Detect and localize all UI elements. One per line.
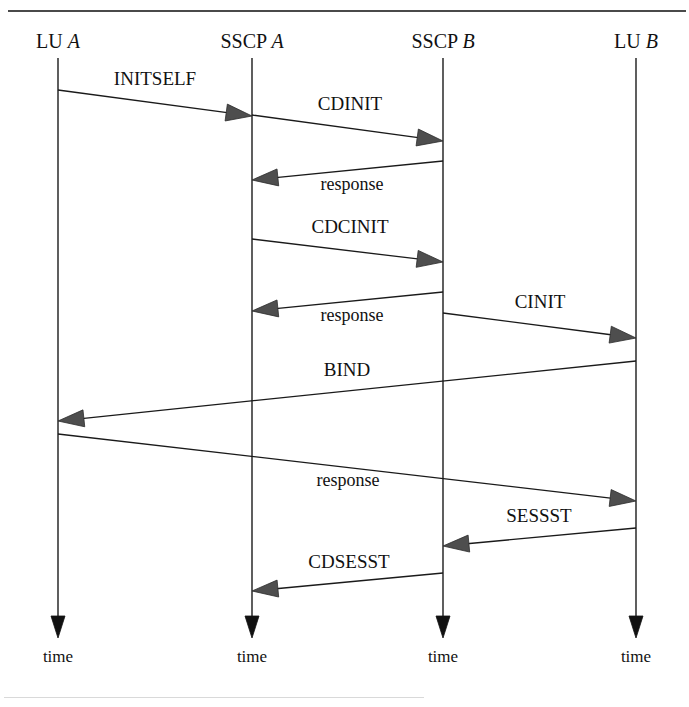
actor-label-lu_b: LU B — [614, 30, 658, 52]
actor-label-sscp_a: SSCP A — [220, 30, 284, 52]
actor-labels-group: LU ASSCP ASSCP BLU B — [36, 30, 658, 52]
message-m5: response — [252, 292, 443, 325]
message-m9: SESSST — [443, 505, 636, 552]
message-arrowhead-m6 — [609, 326, 636, 343]
message-m4: CDCINIT — [252, 216, 443, 267]
time-label-lu_a: time — [43, 647, 73, 666]
message-arrowhead-m3 — [252, 169, 279, 186]
message-m7: BIND — [58, 359, 636, 427]
message-arrowhead-m2 — [416, 129, 443, 146]
message-m8: response — [58, 434, 636, 506]
lifeline-sscp_a — [245, 58, 259, 638]
time-labels-group: timetimetimetime — [43, 647, 651, 666]
message-label-m2: CDINIT — [318, 93, 383, 114]
message-line-m10 — [273, 573, 443, 589]
message-label-m5: response — [321, 305, 384, 325]
message-arrowhead-m9 — [443, 535, 470, 552]
lifeline-arrowhead-sscp_b — [436, 616, 450, 638]
message-label-m1: INITSELF — [114, 68, 196, 89]
lifeline-sscp_b — [436, 58, 450, 638]
message-arrowhead-m8 — [609, 490, 636, 507]
actor-label-sscp_b: SSCP B — [411, 30, 474, 52]
lifeline-lu_a — [51, 58, 65, 638]
message-label-m8: response — [317, 470, 380, 490]
message-line-m1 — [58, 90, 231, 113]
time-label-sscp_a: time — [237, 647, 267, 666]
message-m10: CDSESST — [252, 551, 443, 597]
time-label-lu_b: time — [621, 647, 651, 666]
bottom-smudge-rule — [4, 697, 424, 698]
message-arrowhead-m4 — [416, 250, 443, 267]
sequence-diagram-page: INITSELFCDINITresponseCDCINITresponseCIN… — [0, 0, 689, 707]
message-arrowhead-m1 — [225, 104, 252, 121]
message-line-m4 — [252, 239, 422, 259]
lifeline-arrowhead-sscp_a — [245, 616, 259, 638]
lifeline-arrowhead-lu_b — [629, 616, 643, 638]
message-m2: CDINIT — [252, 93, 443, 146]
message-m1: INITSELF — [58, 68, 252, 121]
sequence-diagram-canvas: INITSELFCDINITresponseCDCINITresponseCIN… — [0, 0, 689, 707]
message-label-m10: CDSESST — [308, 551, 390, 572]
lifeline-lu_b — [629, 58, 643, 638]
message-label-m4: CDCINIT — [311, 216, 388, 237]
message-arrowhead-m10 — [252, 580, 279, 597]
message-label-m3: response — [321, 174, 384, 194]
messages-group: INITSELFCDINITresponseCDCINITresponseCIN… — [58, 68, 636, 597]
message-m3: response — [252, 161, 443, 194]
message-label-m9: SESSST — [506, 505, 572, 526]
message-line-m6 — [443, 313, 615, 335]
message-m6: CINIT — [443, 291, 636, 343]
message-line-m2 — [252, 115, 422, 138]
message-label-m7: BIND — [324, 359, 370, 380]
message-label-m6: CINIT — [515, 291, 566, 312]
message-line-m9 — [464, 528, 636, 544]
time-label-sscp_b: time — [428, 647, 458, 666]
lifeline-arrowhead-lu_a — [51, 616, 65, 638]
message-arrowhead-m7 — [58, 410, 85, 427]
message-arrowhead-m5 — [252, 300, 279, 317]
actor-label-lu_a: LU A — [36, 30, 81, 52]
